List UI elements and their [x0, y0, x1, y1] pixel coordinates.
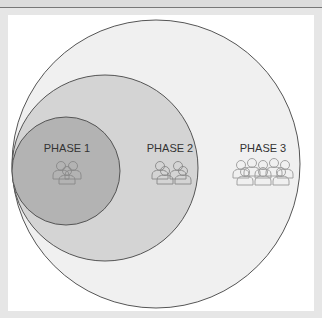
phase-3-label: PHASE 3 [240, 142, 286, 154]
phase-1-label: PHASE 1 [44, 142, 90, 154]
phase-2-label: PHASE 2 [147, 142, 193, 154]
phase-diagram: PHASE 1 PHASE 2 PHASE 3 [0, 0, 322, 318]
